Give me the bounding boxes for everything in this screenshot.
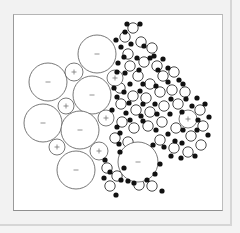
solvent-circle [196,140,206,150]
solvent-circle [180,87,190,97]
atom-dot [134,55,139,60]
anion [78,35,116,73]
solvent-circle [116,99,126,109]
anion [24,104,62,142]
atom-dot [168,96,173,101]
atom-dot [137,21,142,26]
atom-dot [114,124,119,129]
solvent-circle [171,123,181,133]
atom-dot [111,85,116,90]
atom-dot [165,65,170,70]
atom-dot [176,77,181,82]
atom-dot [114,69,119,74]
solvent-circle [173,99,183,109]
solvent-circle [105,181,115,191]
atom-dot [140,81,145,86]
solvent-circle [145,79,155,89]
atom-dot [144,177,149,182]
atom-dot [161,144,166,149]
solvent-circle [157,117,167,127]
atom-dot [165,131,170,136]
solvent-circle [183,147,193,157]
solvent-circle [147,43,157,53]
anion [118,142,158,182]
solvent-circle [167,85,177,95]
atom-dot [157,161,162,166]
atom-dot [179,140,184,145]
atom-dot [179,109,184,114]
atom-dot [189,103,194,108]
anion [57,151,95,189]
atom-dot [118,177,123,182]
atom-dot [117,130,122,135]
ion-packing-diagram [0,0,240,233]
atom-dot [194,127,199,132]
solvent-circle [145,107,155,117]
atom-dot [138,113,143,118]
atom-dot [117,149,122,154]
cation [58,98,74,114]
atom-dot [180,81,185,86]
atom-dot [114,94,119,99]
atom-dot [167,111,172,116]
atom-dot [101,175,106,180]
atom-dot [194,95,199,100]
atom-dot [113,37,118,42]
anion [73,76,111,114]
atom-dot [116,141,121,146]
atom-dot [131,180,136,185]
atom-dot [118,44,123,49]
atom-dot [140,101,145,106]
solvent-circle [195,105,205,115]
solvent-circle [158,71,168,81]
cation [90,142,108,160]
atom-dot [159,188,164,193]
atom-dot [122,70,127,75]
atom-dot [180,127,185,132]
atom-dot [160,56,165,61]
cation [65,63,83,81]
atom-dot [153,83,158,88]
atom-dot [172,138,177,143]
atom-dot [128,41,133,46]
solvent-circle [147,181,157,191]
atom-dot [137,88,142,93]
atom-dot [126,100,131,105]
atom-dot [102,157,107,162]
solvent-circle [155,135,165,145]
atom-dot [124,21,129,26]
atom-dot [121,54,126,59]
atom-dot [115,60,120,65]
atom-dot [151,53,156,58]
atom-dot [178,155,183,160]
solvent-circle [125,61,135,71]
atom-dot [123,110,128,115]
atom-dot [107,169,112,174]
atom-dot [127,117,132,122]
solvent-circle [186,131,196,141]
cation [49,139,65,155]
atom-dot [153,127,158,132]
atom-dot [127,81,132,86]
anion [61,111,99,149]
atom-dot [195,117,200,122]
atom-dot [152,101,157,106]
atom-dot [109,107,114,112]
atom-dot [125,178,130,183]
atom-dot [155,67,160,72]
atom-dot [150,142,155,147]
solvent-circle [129,123,139,133]
solvent-circle [159,101,169,111]
atom-dot [136,67,141,72]
atom-dot [183,96,188,101]
anion [29,63,67,101]
atom-dot [202,101,207,106]
atom-dot [152,171,157,176]
atom-dot [140,118,145,123]
atom-dot [206,114,211,119]
atom-dot [168,153,173,158]
atom-dot [154,111,159,116]
solvent-circle [131,105,141,115]
atom-dot [205,132,210,137]
atom-dot [113,192,118,197]
